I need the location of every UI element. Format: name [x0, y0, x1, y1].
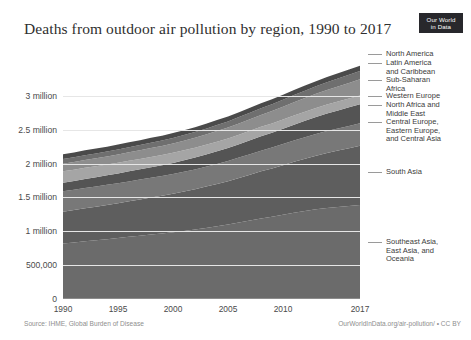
x-axis-line	[63, 298, 360, 299]
y-axis-tick-label: 1 million	[25, 226, 57, 236]
x-axis-tick-label: 1995	[109, 304, 128, 314]
y-axis-tick-label: 2 million	[25, 159, 57, 169]
gridline	[63, 231, 360, 232]
chart-root: Deaths from outdoor air pollution by reg…	[0, 0, 471, 340]
owid-logo-line2: in Data	[419, 23, 463, 30]
y-axis-tick-label: 1.5 million	[18, 192, 57, 202]
y-axis-tick-label: 0	[52, 294, 57, 304]
gridline	[63, 96, 360, 97]
x-axis-tick-label: 2010	[274, 304, 293, 314]
legend-item: South Asia	[386, 168, 422, 177]
x-axis-tick-label: 1990	[54, 304, 73, 314]
owid-logo-line1: Our World	[419, 16, 463, 23]
plot-area: 0500,0001 million1.5 million2 million2.5…	[63, 62, 360, 299]
page-title: Deaths from outdoor air pollution by reg…	[24, 20, 391, 38]
legend-leader-line	[368, 63, 382, 64]
legend-leader-line	[368, 80, 382, 81]
legend-leader-line	[368, 96, 382, 97]
source-note: Source: IHME, Global Burden of Disease	[24, 320, 144, 327]
gridline	[63, 197, 360, 198]
gridline	[63, 265, 360, 266]
legend-leader-line	[368, 105, 382, 106]
legend-leader-line	[368, 242, 382, 243]
y-axis-tick-label: 2.5 million	[18, 125, 57, 135]
stacked-area-series	[63, 62, 360, 299]
legend-leader-line	[368, 172, 382, 173]
legend-item: Central Europe, Eastern Europe, and Cent…	[386, 118, 441, 144]
x-axis-tick-label: 2000	[164, 304, 183, 314]
owid-logo: Our World in Data	[419, 13, 463, 33]
gridline	[63, 130, 360, 131]
legend-item: Southeast Asia, East Asia, and Oceania	[386, 238, 438, 264]
legend-item: North Africa and Middle East	[386, 101, 440, 118]
attribution-note: OurWorldInData.org/air-pollution/ • CC B…	[338, 320, 461, 327]
y-axis-tick-label: 500,000	[26, 260, 57, 270]
legend-leader-line	[368, 122, 382, 123]
y-axis-tick-label: 3 million	[25, 91, 57, 101]
gridline	[63, 164, 360, 165]
x-axis-tick-label: 2005	[219, 304, 238, 314]
legend-leader-line	[368, 54, 382, 55]
legend-item: Latin America and Caribbean	[386, 59, 435, 76]
x-axis-tick-label: 2017	[351, 304, 370, 314]
